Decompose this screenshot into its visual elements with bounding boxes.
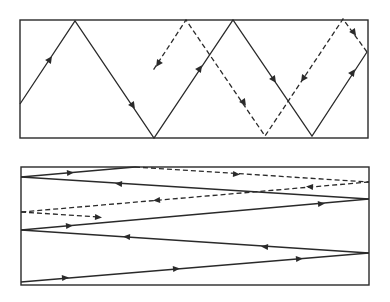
arrow-icon <box>66 222 73 229</box>
reflection-diagram <box>0 0 390 302</box>
bottom-solid-rays <box>21 167 369 282</box>
arrow-icon <box>173 265 180 272</box>
arrow-icon <box>95 214 102 220</box>
arrow-icon <box>67 169 74 176</box>
arrow-icon <box>298 74 308 84</box>
arrow-icon <box>261 244 268 250</box>
top-dashed-arrow-icons <box>153 28 359 108</box>
arrow-icon <box>233 171 240 177</box>
arrow-icon <box>306 184 313 190</box>
bottom-panel <box>21 167 369 285</box>
top-solid-ray <box>20 20 367 138</box>
arrow-icon <box>115 181 122 187</box>
top-dashed-ray <box>152 19 367 136</box>
arrow-icon <box>269 75 279 85</box>
top-solid-arrow-icons <box>45 54 358 111</box>
bottom-arrow-icons <box>62 169 325 281</box>
arrow-icon <box>62 274 69 281</box>
arrow-icon <box>153 197 160 204</box>
arrow-icon <box>45 54 55 64</box>
arrow-icon <box>123 234 130 240</box>
arrow-icon <box>318 200 325 207</box>
top-panel <box>20 19 368 138</box>
arrow-icon <box>296 255 303 262</box>
bottom-dashed-rays <box>21 167 369 217</box>
